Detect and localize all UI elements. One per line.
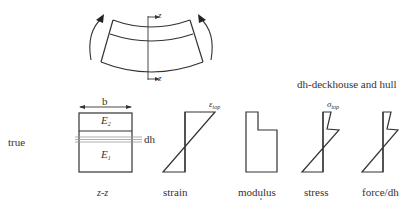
lower-layer-label: E1 [101, 149, 111, 161]
beam-bottom-edge [101, 62, 203, 72]
strip-label: dh [144, 134, 155, 145]
caption-deckhouse-hull: dh-deckhouse and hull [297, 79, 397, 90]
stress-peak-label: σtop [327, 100, 339, 110]
modulus-profile [246, 112, 277, 172]
section-caption: z-z [97, 188, 108, 198]
beam-top-edge [113, 20, 190, 27]
force-profile [362, 112, 398, 172]
bent-beam [101, 16, 203, 80]
axis-label-z-top: z [158, 11, 162, 20]
moment-arrow-left [90, 18, 102, 60]
upper-layer-label: E2 [101, 115, 111, 127]
strain-profile [163, 112, 215, 172]
row-label: true [8, 137, 25, 148]
diagram-canvas [0, 0, 415, 209]
dim-arrow-right-icon [126, 105, 132, 109]
moment-arrowhead-left-icon [96, 14, 104, 23]
strain-caption: strain [163, 187, 187, 198]
axis-label-z-bottom: z [158, 74, 162, 83]
stress-profile [302, 112, 339, 172]
width-label: b [102, 96, 108, 107]
stray-mark [260, 198, 262, 200]
moment-arrow-right [200, 18, 212, 60]
strain-peak-label: εtop [209, 100, 220, 110]
beam-right-edge [190, 20, 203, 62]
dim-arrow-left-icon [79, 105, 85, 109]
moment-arrowhead-right-icon [198, 14, 206, 23]
modulus-caption: modulus [238, 187, 276, 198]
stress-caption: stress [304, 187, 328, 198]
beam-layer-boundary [110, 34, 193, 41]
force-caption: force/dh [362, 187, 399, 198]
beam-left-edge [101, 20, 113, 62]
